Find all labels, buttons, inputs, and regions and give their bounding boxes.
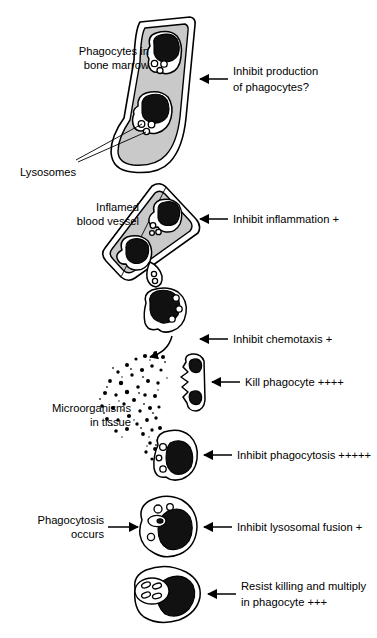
label-inflamed-blood-vessel-line2: blood vessel — [77, 215, 139, 227]
phagocyte-evasion-diagram: Phagocytes in bone marrow Lysosomes Infl… — [0, 0, 377, 638]
chemotaxis-arrow — [150, 336, 172, 357]
stage-phagocytosing-cell — [108, 496, 197, 557]
lysosome-vesicle — [154, 505, 162, 513]
label-inflamed-blood-vessel-line1: Inflamed — [96, 201, 139, 213]
text-kill-phagocyte: Kill phagocyte ++++ — [245, 376, 344, 388]
label-phagocytosis-occurs-line2: occurs — [71, 528, 104, 540]
phagocyte-marrow-lower — [133, 92, 173, 135]
text-inhibit-production-line1: Inhibit production — [233, 65, 318, 77]
text-resist-killing-line2: in phagocyte +++ — [241, 596, 327, 608]
text-inhibit-inflammation: Inhibit inflammation + — [233, 213, 339, 225]
diagram-canvas: Phagocytes in bone marrow Lysosomes Infl… — [0, 0, 377, 638]
stage-blood-vessel — [103, 184, 200, 287]
left-label-microorganisms-in-tissue: Microorganisms in tissue — [52, 402, 131, 428]
annotation-resist-killing: Resist killing and multiply in phagocyte… — [241, 580, 366, 608]
stage-damaged-phagocyte — [181, 354, 205, 411]
text-inhibit-production-line2: of phagocytes? — [233, 81, 309, 93]
text-inhibit-phagocytosis: Inhibit phagocytosis +++++ — [237, 449, 371, 461]
label-phagocytosis-occurs-line1: Phagocytosis — [37, 514, 104, 526]
text-resist-killing-line1: Resist killing and multiply — [241, 580, 366, 592]
label-phagocytes-bone-marrow-line2: bone marrow — [84, 59, 150, 71]
stage-bone-marrow — [76, 17, 195, 173]
label-lysosomes: Lysosomes — [20, 166, 77, 178]
text-inhibit-lysosomal-fusion: Inhibit lysosomal fusion + — [237, 521, 362, 533]
stage-infected-cell — [135, 566, 201, 622]
left-label-phagocytosis-occurs: Phagocytosis occurs — [37, 514, 104, 540]
label-microorganisms-line2: in tissue — [90, 416, 131, 428]
phagocyte-marrow-upper — [147, 32, 181, 74]
stage-migrating-phagocyte — [144, 288, 186, 357]
label-microorganisms-line1: Microorganisms — [52, 402, 131, 414]
vacuole — [135, 578, 169, 604]
annotation-inhibit-production: Inhibit production of phagocytes? — [233, 65, 318, 93]
label-phagocytes-bone-marrow-line1: Phagocytes in — [79, 45, 149, 57]
left-label-inflamed-blood-vessel: Inflamed blood vessel — [77, 201, 139, 227]
stage-phagocyte-contacting-microbes — [154, 430, 198, 480]
text-inhibit-chemotaxis: Inhibit chemotaxis + — [233, 333, 332, 345]
